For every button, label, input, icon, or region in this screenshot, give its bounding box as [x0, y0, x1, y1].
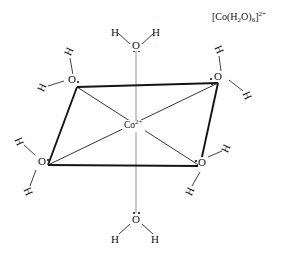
- formula-ligand-h: H: [230, 11, 237, 22]
- lone-pair-dot-topleft-b: [78, 86, 80, 88]
- bond-oh-topright-side: [229, 80, 243, 91]
- lone-pair-dot-bottomright-a: [195, 160, 197, 162]
- oxygen-bottomleft: O: [38, 156, 46, 167]
- formula-metal: Co: [215, 11, 227, 22]
- lone-pair-dot-topleft-a: [77, 81, 79, 83]
- center-metal-charge: 2+: [135, 118, 142, 126]
- complex-formula-label: [Co(H2O)6]2+: [212, 12, 266, 22]
- bond-oh-bottomleft-up: [24, 145, 35, 155]
- lone-pair-dot-bottomleft-a: [47, 159, 49, 161]
- oxygen-bottomright: O: [198, 157, 206, 168]
- lone-pair-dot-topright-b: [211, 83, 213, 85]
- center-metal-label: Co2+: [122, 120, 145, 132]
- oxygen-topright: O: [214, 71, 222, 82]
- bond-oh-topleft-side: [48, 81, 64, 86]
- formula-ligand-count: 6: [252, 16, 256, 24]
- bond-oh-axial-bottom-left: [119, 224, 130, 234]
- lone-pair-dot-bottomleft-b: [48, 164, 50, 166]
- edge-topleft-topright: [77, 83, 218, 87]
- edge-bottomright-bottomleft: [48, 165, 200, 166]
- formula-h-count: 2: [238, 16, 242, 24]
- oxygen-topleft: O: [68, 74, 76, 85]
- bond-oh-axial-top-left: [118, 33, 130, 44]
- bond-oh-bottomleft-down: [30, 170, 36, 186]
- hydrogen-axial-bottom-right: H: [151, 234, 159, 245]
- hydrogen-axial-top-left: H: [111, 27, 119, 38]
- bond-oh-bottomright-up: [208, 151, 222, 157]
- hydrogen-axial-top-right: H: [152, 27, 160, 38]
- lone-pair-dot-topright-a: [210, 78, 212, 80]
- coordination-complex-diagram: [Co(H2O)6]2+ Co2+ H H O O H H H H O H H …: [0, 0, 281, 255]
- bond-oh-bottomright-down: [192, 172, 200, 186]
- hydrogen-axial-bottom-left: H: [111, 234, 119, 245]
- oxygen-axial-bottom: O: [132, 214, 140, 225]
- bond-oh-topright-up: [219, 56, 221, 71]
- formula-charge: 2+: [259, 10, 266, 18]
- oxygen-axial-top: O: [132, 40, 140, 51]
- center-metal-symbol: Co: [124, 120, 135, 130]
